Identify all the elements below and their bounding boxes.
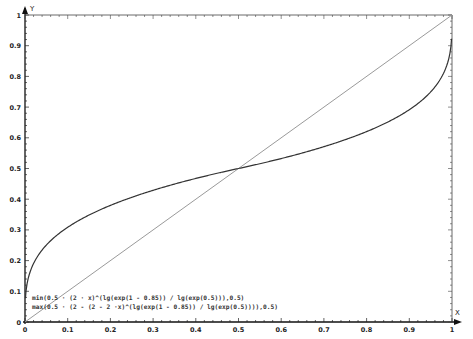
x-axis-arrow-icon	[454, 319, 462, 325]
x-axis-name: X	[455, 309, 460, 317]
y-axis-arrow-icon	[22, 6, 28, 14]
x-tick-label: 0.8	[361, 326, 373, 334]
y-tick-label: 0.2	[9, 257, 21, 265]
legend-entry-min: min(0.5 · (2 · x)^(lg(exp(1 - 0.85)) / l…	[32, 294, 244, 302]
y-tick-label: 0.3	[9, 226, 21, 234]
x-tick-label: 0.9	[404, 326, 416, 334]
y-tick-label: 0.4	[9, 196, 21, 204]
x-tick-label: 0.7	[318, 326, 330, 334]
legend-entry-max: max(0.5 · (2 - (2 - 2 ·x)^(lg(exp(1 - 0.…	[32, 303, 278, 311]
y-tick-label: 0.6	[9, 134, 21, 142]
y-tick-label: 0.9	[9, 42, 21, 50]
y-axis-name: Y	[29, 5, 35, 13]
y-tick-label: 0.7	[9, 104, 21, 112]
y-tick-label: 0	[16, 319, 21, 327]
x-tick-label: 1	[450, 326, 455, 334]
y-tick-label: 0.8	[9, 73, 21, 81]
y-tick-label: 0.5	[9, 165, 21, 173]
x-tick-label: 0.4	[190, 326, 202, 334]
x-tick-label: 0.5	[233, 326, 245, 334]
x-tick-label: 0.6	[275, 326, 287, 334]
x-tick-label: 0.3	[147, 326, 159, 334]
function-plot: 00.10.20.30.40.50.60.70.80.9100.10.20.30…	[0, 0, 473, 339]
s-curve-series	[25, 39, 451, 298]
y-tick-label: 1	[16, 12, 21, 20]
x-tick-label: 0.2	[105, 326, 117, 334]
y-tick-label: 0.1	[9, 288, 21, 296]
x-tick-label: 0	[23, 326, 28, 334]
x-tick-label: 0.1	[62, 326, 74, 334]
